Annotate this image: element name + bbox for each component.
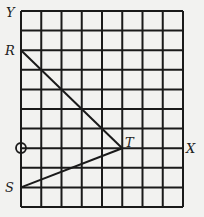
point-label-s: S	[5, 180, 14, 195]
origin-dot	[20, 147, 22, 149]
y-axis-label: Y	[6, 5, 16, 20]
x-axis-label: X	[185, 141, 196, 156]
point-label-t: T	[125, 135, 135, 150]
coordinate-grid-diagram: Y R T X S	[0, 0, 204, 217]
segment-rt	[21, 50, 122, 148]
point-label-r: R	[4, 43, 15, 58]
